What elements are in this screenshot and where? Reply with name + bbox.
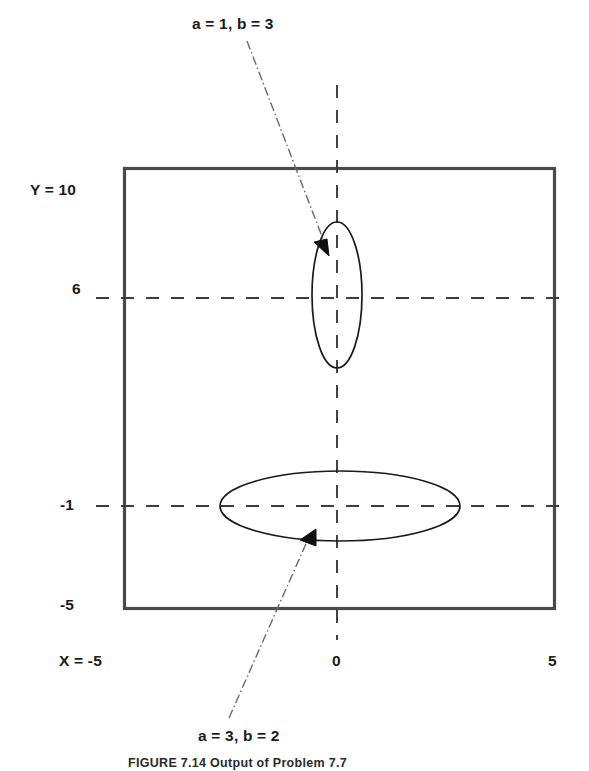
y-axis-tick-6: 6 bbox=[72, 281, 81, 297]
annotation-label-bottom: a = 3, b = 2 bbox=[198, 728, 280, 744]
y-axis-label-top: Y = 10 bbox=[30, 182, 76, 198]
x-axis-label-left: X = -5 bbox=[59, 653, 102, 669]
figure-container: a = 1, b = 3 a = 3, b = 2 Y = 10 6 -1 -5… bbox=[0, 0, 589, 771]
figure-caption: FIGURE 7.14 Output of Problem 7.7 bbox=[128, 757, 347, 770]
x-axis-tick-0: 0 bbox=[332, 653, 341, 669]
y-axis-tick-minus-1: -1 bbox=[60, 497, 74, 513]
x-axis-tick-5: 5 bbox=[548, 653, 557, 669]
leader-line-bottom bbox=[229, 537, 309, 718]
annotation-label-top: a = 1, b = 3 bbox=[192, 16, 274, 32]
arrowhead-bottom bbox=[300, 529, 316, 546]
y-axis-tick-minus-5: -5 bbox=[60, 597, 74, 613]
leader-line-top bbox=[247, 41, 326, 247]
plot-frame bbox=[125, 169, 555, 609]
